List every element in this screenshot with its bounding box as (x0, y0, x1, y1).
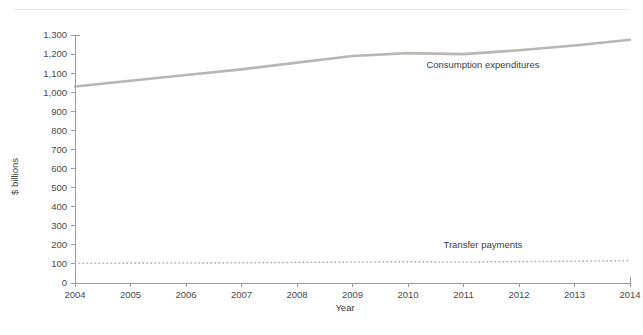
axis-lines (75, 35, 630, 283)
y-tick-label: 200 (51, 239, 67, 250)
chart-figure: 01002003004005006007008009001,0001,1001,… (0, 0, 643, 335)
x-axis-ticks: 2004200520062007200820092010201120122013… (64, 283, 640, 300)
x-tick-label: 2013 (564, 289, 585, 300)
y-tick-label: 300 (51, 220, 67, 231)
series-line (75, 261, 630, 264)
y-tick-label: 800 (51, 125, 67, 136)
x-tick-label: 2005 (120, 289, 141, 300)
x-axis-title: Year (335, 302, 354, 313)
y-tick-label: 1,100 (43, 68, 67, 79)
series-annotations: Consumption expendituresTransfer payment… (426, 59, 539, 249)
y-tick-label: 100 (51, 258, 67, 269)
x-tick-label: 2011 (453, 289, 473, 300)
x-tick-label: 2008 (286, 289, 307, 300)
x-tick-label: 2014 (619, 289, 640, 300)
x-tick-label: 2010 (397, 289, 418, 300)
y-axis-title: $ billions (9, 158, 20, 195)
line-chart: 01002003004005006007008009001,0001,1001,… (0, 0, 643, 335)
series-line (75, 40, 630, 87)
series-label: Transfer payments (444, 239, 523, 250)
series-label: Consumption expenditures (426, 59, 539, 70)
x-tick-label: 2004 (64, 289, 85, 300)
y-tick-label: 1,300 (43, 29, 67, 40)
x-tick-label: 2006 (175, 289, 196, 300)
y-tick-label: 900 (51, 106, 67, 117)
y-tick-label: 600 (51, 163, 67, 174)
y-tick-label: 700 (51, 144, 67, 155)
series-lines (75, 40, 630, 264)
x-tick-label: 2009 (342, 289, 363, 300)
y-tick-label: 1,000 (43, 87, 67, 98)
y-tick-label: 500 (51, 182, 67, 193)
y-tick-label: 400 (51, 201, 67, 212)
x-tick-label: 2012 (508, 289, 529, 300)
y-tick-label: 1,200 (43, 48, 67, 59)
y-axis-ticks: 01002003004005006007008009001,0001,1001,… (43, 29, 75, 288)
y-tick-label: 0 (62, 277, 67, 288)
x-tick-label: 2007 (231, 289, 252, 300)
